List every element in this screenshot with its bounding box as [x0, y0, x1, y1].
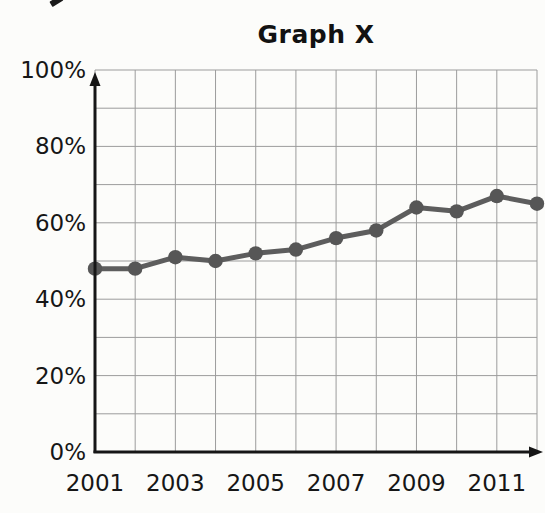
y-tick-label: 80% — [35, 133, 86, 159]
data-point — [449, 204, 463, 218]
y-tick-label: 0% — [50, 439, 87, 465]
axes — [94, 83, 535, 453]
data-point — [369, 223, 383, 237]
data-point — [329, 231, 343, 245]
x-tick-label: 2011 — [468, 470, 527, 496]
data-line — [95, 196, 537, 269]
x-axis-arrow-icon — [529, 447, 543, 458]
y-tick-label: 40% — [35, 286, 86, 312]
y-tick-labels: 0%20%40%60%80%100% — [20, 57, 86, 465]
y-tick-label: 100% — [20, 57, 86, 83]
data-point — [168, 250, 182, 264]
line-chart: 0%20%40%60%80%100%2001200320052007200920… — [0, 0, 545, 513]
y-tick-label: 60% — [35, 210, 86, 236]
data-point — [249, 246, 263, 260]
scanned-chart-page: Graph X 0%20%40%60%80%100%20012003200520… — [0, 0, 545, 513]
data-point — [409, 200, 423, 214]
x-tick-label: 2009 — [387, 470, 446, 496]
data-point — [208, 254, 222, 268]
y-axis-arrow-icon — [90, 72, 101, 86]
x-tick-labels: 200120032005200720092011 — [66, 470, 526, 496]
data-series — [88, 189, 544, 276]
y-tick-label: 20% — [35, 363, 86, 389]
data-point — [289, 242, 303, 256]
x-tick-label: 2003 — [146, 470, 205, 496]
data-point — [490, 189, 504, 203]
x-tick-label: 2007 — [307, 470, 366, 496]
x-tick-label: 2005 — [226, 470, 285, 496]
data-point — [530, 197, 544, 211]
x-tick-label: 2001 — [66, 470, 125, 496]
data-point — [128, 261, 142, 275]
